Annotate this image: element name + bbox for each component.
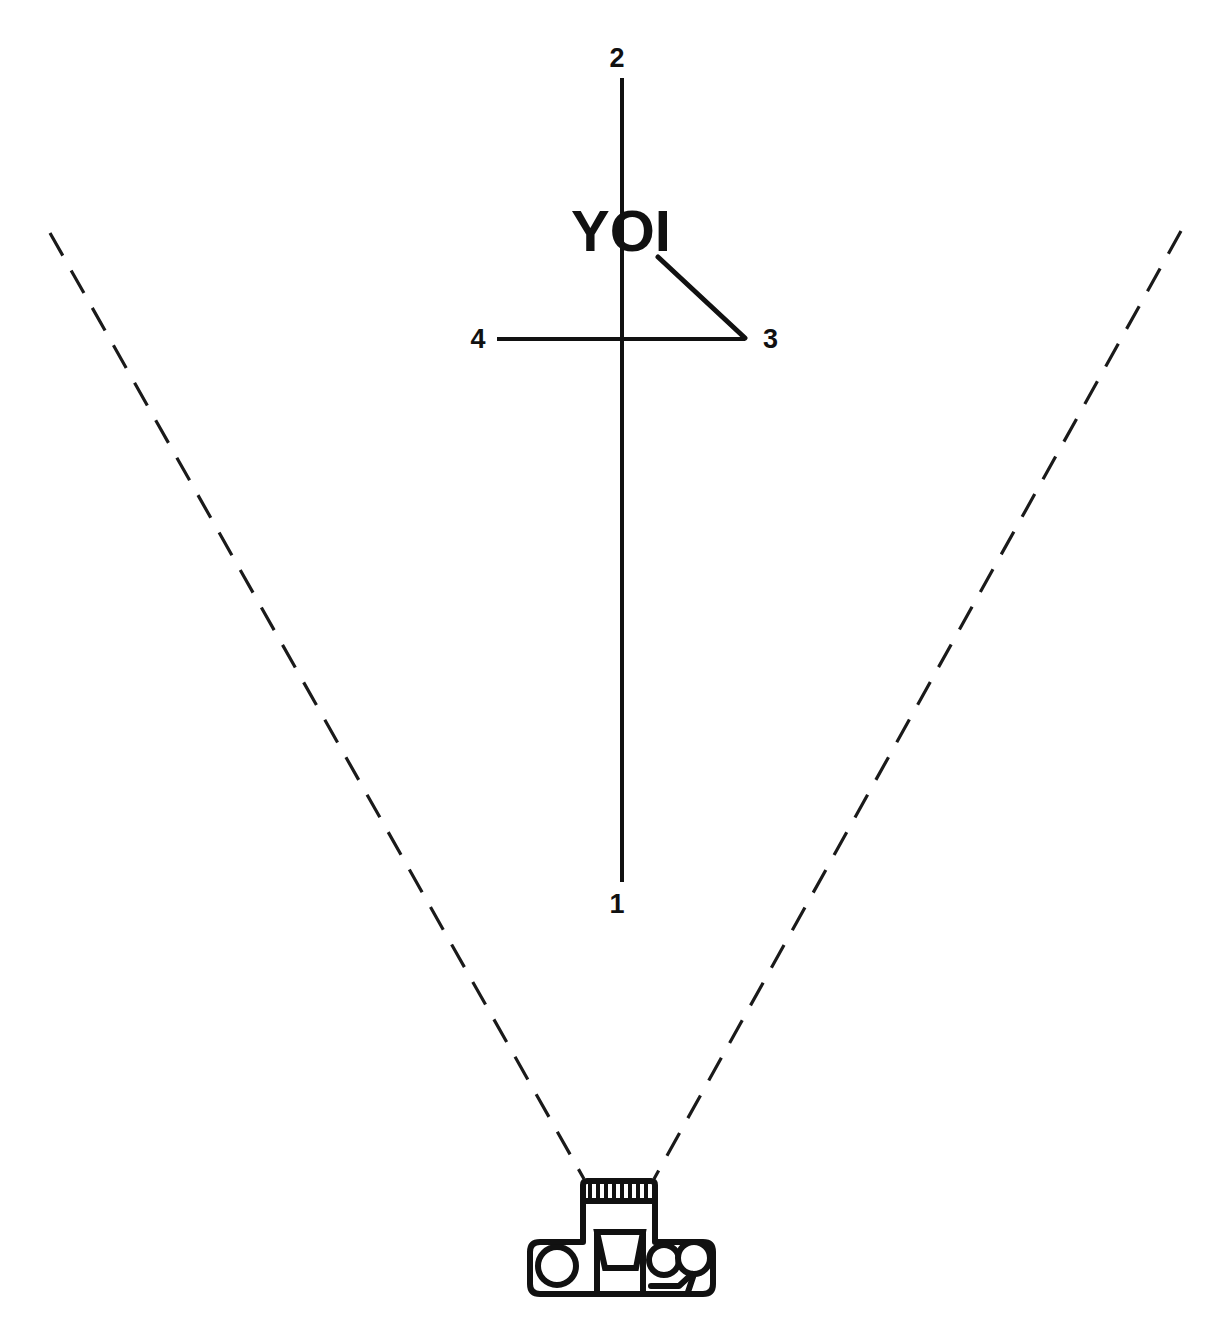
camera-prism-taper <box>597 1232 643 1268</box>
field-of-view-group <box>50 231 1181 1179</box>
camera-wind-knob <box>678 1242 710 1274</box>
diagonal-pointer-line <box>658 257 745 338</box>
callout-label-3: 3 <box>763 324 778 354</box>
yoi-text-label: YOI <box>571 198 671 263</box>
fov-left-ray <box>50 233 584 1179</box>
callout-label-1: 1 <box>609 889 624 919</box>
camera-field-of-view-diagram: 2 1 4 3 YOI <box>0 0 1212 1336</box>
callout-label-2: 2 <box>609 43 624 73</box>
camera-viewfinder-group <box>597 1232 643 1294</box>
camera-rewind-knob <box>649 1245 679 1275</box>
fov-right-ray <box>654 231 1181 1179</box>
technical-diagram: 2 1 4 3 YOI <box>0 0 1212 1336</box>
callout-label-4: 4 <box>470 324 485 354</box>
camera-shutter-knob <box>538 1247 576 1285</box>
camera-lens-group <box>583 1181 655 1201</box>
camera-top-view <box>530 1181 713 1294</box>
